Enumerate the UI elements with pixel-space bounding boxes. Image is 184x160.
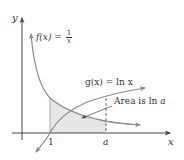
area-label-text: Area is ln [114,96,160,106]
f-label-fraction: 1x [66,30,72,45]
shaded-area-region [50,98,106,133]
area-label-variable: a [160,96,165,106]
f-label-prefix: f(x) = [36,32,65,42]
tick-label-a: a [103,138,108,147]
f-frac-denominator: x [66,38,72,45]
area-pointer-arrow [82,106,112,118]
g-function-label: g(x) = ln x [85,78,133,87]
x-axis-label: x [168,137,174,147]
f-function-label: f(x) = 1x [36,30,72,45]
y-axis-label: y [12,13,18,23]
area-label: Area is ln a [114,97,166,106]
tick-label-one: 1 [48,138,54,147]
